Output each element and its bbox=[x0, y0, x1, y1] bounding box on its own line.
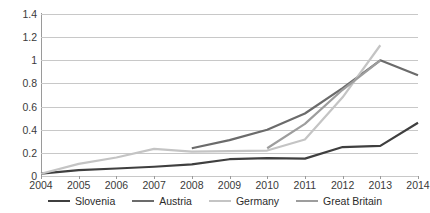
y-axis-tick-label: 1.4 bbox=[3, 9, 37, 20]
legend-label: Austria bbox=[159, 195, 192, 207]
legend-label: Slovenia bbox=[75, 195, 115, 207]
legend-swatch-icon bbox=[48, 200, 70, 203]
legend-item[interactable]: Austria bbox=[132, 195, 192, 207]
legend-label: Germany bbox=[236, 195, 279, 207]
x-axis-tick-label: 2007 bbox=[142, 179, 165, 191]
y-axis-tick-label: 0.8 bbox=[3, 78, 37, 89]
x-axis-tick-mark bbox=[41, 176, 42, 179]
plot-area bbox=[41, 14, 418, 176]
series-lines bbox=[41, 14, 418, 176]
x-axis-tick-label: 2012 bbox=[331, 179, 354, 191]
x-axis-tick-mark bbox=[343, 176, 344, 179]
legend-label: Great Britain bbox=[323, 195, 382, 207]
y-axis-tick-label: 1.2 bbox=[3, 32, 37, 43]
legend-swatch-icon bbox=[132, 200, 154, 203]
x-axis-tick-mark bbox=[154, 176, 155, 179]
x-axis-tick-label: 2006 bbox=[105, 179, 128, 191]
series-line bbox=[41, 123, 418, 174]
x-axis-tick-mark bbox=[116, 176, 117, 179]
y-axis-tick-label: 0.6 bbox=[3, 102, 37, 113]
legend-item[interactable]: Germany bbox=[209, 195, 279, 207]
x-axis-tick-mark bbox=[267, 176, 268, 179]
legend-item[interactable]: Slovenia bbox=[48, 195, 115, 207]
x-axis-tick-mark bbox=[418, 176, 419, 179]
x-axis-tick-label: 2008 bbox=[180, 179, 203, 191]
x-axis-tick-label: 2004 bbox=[29, 179, 52, 191]
x-axis-tick-label: 2009 bbox=[218, 179, 241, 191]
x-axis-tick-label: 2014 bbox=[406, 179, 429, 191]
legend-item[interactable]: Great Britain bbox=[296, 195, 382, 207]
x-axis-tick-label: 2010 bbox=[256, 179, 279, 191]
x-axis-ticks: 2004200520062007200820092010201120122013… bbox=[41, 179, 418, 193]
x-axis-tick-label: 2005 bbox=[67, 179, 90, 191]
y-axis-tick-label: 1 bbox=[3, 55, 37, 66]
x-axis-tick-mark bbox=[79, 176, 80, 179]
line-chart: 00.20.40.60.811.21.4 2004200520062007200… bbox=[0, 0, 430, 213]
x-axis-tick-mark bbox=[305, 176, 306, 179]
legend-swatch-icon bbox=[296, 200, 318, 203]
series-line bbox=[41, 45, 380, 173]
chart-legend: SloveniaAustriaGermanyGreat Britain bbox=[0, 193, 430, 209]
y-axis-tick-label: 0.2 bbox=[3, 148, 37, 159]
y-axis-tick-label: 0.4 bbox=[3, 125, 37, 136]
series-line bbox=[192, 60, 418, 148]
x-axis-tick-mark bbox=[192, 176, 193, 179]
x-axis-tick-mark bbox=[230, 176, 231, 179]
x-axis-tick-mark bbox=[380, 176, 381, 179]
x-axis-tick-label: 2011 bbox=[294, 179, 317, 191]
series-line bbox=[267, 60, 380, 148]
x-axis-tick-label: 2013 bbox=[369, 179, 392, 191]
legend-swatch-icon bbox=[209, 200, 231, 203]
